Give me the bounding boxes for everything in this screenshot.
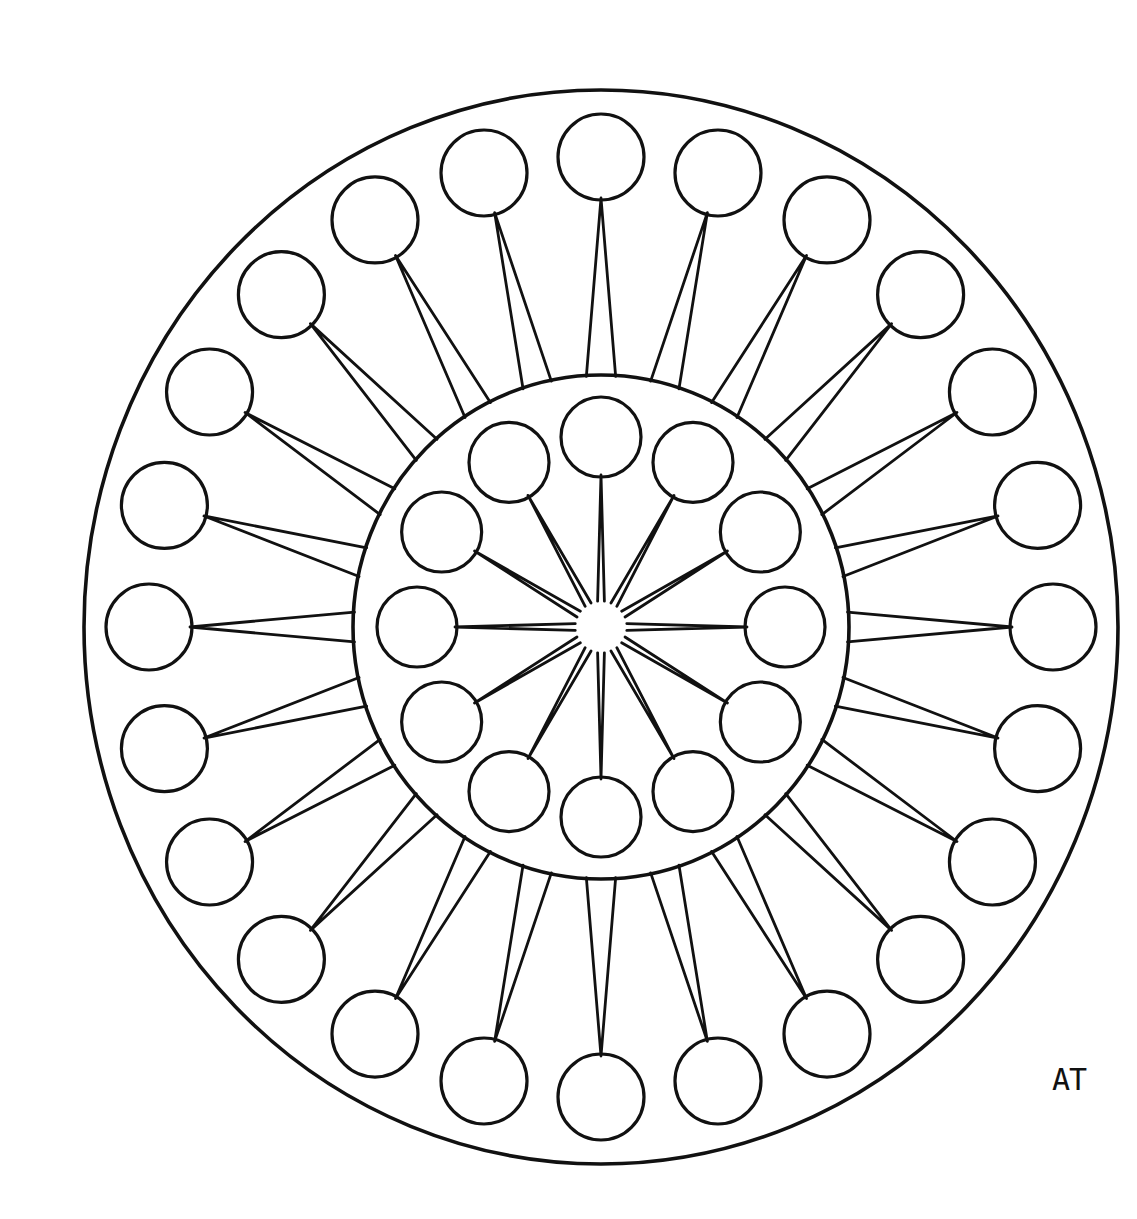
mandala-artwork: AT: [0, 0, 1137, 1219]
artist-signature: AT: [1052, 1062, 1087, 1097]
